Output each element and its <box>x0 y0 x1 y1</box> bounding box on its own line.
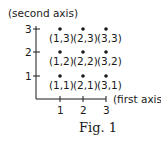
point-dot <box>58 50 62 54</box>
point-label: (3,2) <box>97 55 122 67</box>
x-tick-label-3: 3 <box>103 104 110 116</box>
y-tick-label-2: 2 <box>25 46 32 58</box>
y-axis-label: (second axis) <box>8 7 78 19</box>
point-label: (2,3) <box>73 32 98 44</box>
point-dot <box>58 74 62 78</box>
point-label: (3,1) <box>97 79 122 91</box>
x-tick-label-2: 2 <box>80 104 87 116</box>
point-dot <box>104 74 108 78</box>
point-dot <box>81 27 85 31</box>
y-tick-label-1: 1 <box>25 70 32 82</box>
point-label: (3,3) <box>97 32 122 44</box>
lattice-diagram: (second axis) 3 2 1 1 2 3 (first axis) (… <box>0 0 161 141</box>
point-label: (1,3) <box>49 32 74 44</box>
point-dot <box>81 50 85 54</box>
x-tick-label-1: 1 <box>57 104 64 116</box>
lattice-points: (1,3) (2,3) (3,3) (1,2) (2,2) (3,2) (1,1… <box>49 27 122 91</box>
point-label: (1,2) <box>49 55 74 67</box>
point-dot <box>104 50 108 54</box>
figure-caption: Fig. 1 <box>79 120 117 135</box>
y-tick-label-3: 3 <box>25 23 32 35</box>
point-dot <box>104 27 108 31</box>
point-label: (2,1) <box>73 79 98 91</box>
x-axis-label: (first axis) <box>113 93 161 105</box>
point-dot <box>81 74 85 78</box>
point-dot <box>58 27 62 31</box>
point-label: (2,2) <box>73 55 98 67</box>
point-label: (1,1) <box>49 79 74 91</box>
